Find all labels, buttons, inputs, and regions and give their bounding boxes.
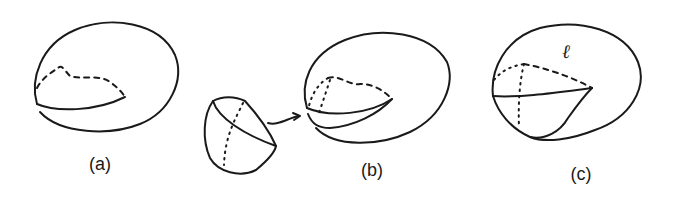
panel-a-lip — [37, 97, 125, 109]
panel-c-hidden-top — [524, 64, 592, 88]
panel-a-label: (a) — [89, 154, 111, 175]
panel-a-hidden-cut — [37, 67, 125, 97]
panel-c-label: (c) — [571, 164, 592, 185]
panel-a-outline — [35, 22, 178, 131]
panel-c-front-edge — [493, 88, 592, 96]
panel-c-ell-annotation: ℓ — [562, 40, 570, 63]
panel-a-shape — [35, 22, 178, 131]
panel-b-hidden-cut — [328, 77, 392, 99]
wedge-piece — [205, 97, 276, 173]
wedge-front-edge — [213, 101, 276, 146]
panel-c-hidden-left — [494, 64, 524, 80]
panel-b-label: (b) — [361, 160, 383, 181]
figure: (a) (b) (c) ℓ — [0, 0, 675, 200]
wedge-hidden-edge — [224, 103, 243, 165]
insert-arrow — [268, 113, 300, 124]
panel-b-shape — [305, 33, 450, 143]
panel-b-hidden-vertical — [318, 80, 330, 116]
